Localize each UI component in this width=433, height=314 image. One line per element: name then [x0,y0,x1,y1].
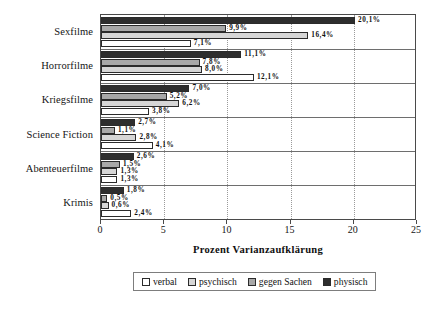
legend-swatch-icon [188,278,196,286]
bar-group: 7,0%5,2%6,2%3,8% [101,83,415,117]
bar-value-label: 2,7% [138,119,156,126]
bar-value-label: 16,4% [311,32,334,39]
bar-group: 1,8%0,5%0,6%2,4% [101,185,415,219]
legend-item[interactable]: psychisch [188,276,237,287]
x-axis-tick-label: 20 [348,224,358,235]
bar[interactable] [101,168,117,175]
bar[interactable] [101,59,200,66]
category-label: Science Fiction [0,117,99,151]
bar-value-label: 9,9% [229,25,247,32]
x-axis-tick-label: 10 [221,224,231,235]
bar[interactable] [101,195,107,202]
bar-value-label: 0,6% [112,202,130,209]
bar-row[interactable]: 2,8% [101,134,415,141]
bar[interactable] [101,187,124,194]
bar-row[interactable]: 2,6% [101,153,415,160]
bar-group: 2,6%1,5%1,3%1,3% [101,151,415,185]
bar-row[interactable]: 20,1% [101,17,415,24]
bar-value-label: 6,2% [182,100,200,107]
bar-row[interactable]: 1,8% [101,187,415,194]
bar-value-label: 1,3% [120,176,138,183]
legend-item[interactable]: physisch [323,276,368,287]
legend-swatch-icon [142,278,150,286]
category-label: Horrorfilme [0,48,99,82]
bar-row[interactable]: 6,2% [101,100,415,107]
legend-swatch-icon [248,278,256,286]
bar[interactable] [101,40,191,47]
bar-value-label: 20,1% [358,17,381,24]
legend-label: gegen Sachen [259,276,312,287]
x-axis-tick-label: 25 [411,224,421,235]
legend-label: physisch [334,276,368,287]
bar-groups: 20,1%9,9%16,4%7,1%11,1%7,8%8,0%12,1%7,0%… [101,15,415,219]
bar[interactable] [101,51,241,58]
category-label: Abenteuerfilme [0,151,99,185]
bar-value-label: 7,1% [194,40,212,47]
bar-row[interactable]: 16,4% [101,32,415,39]
bar-row[interactable]: 2,7% [101,119,415,126]
bar[interactable] [101,153,134,160]
legend-swatch-icon [323,278,331,286]
x-axis-title: Prozent Varianzaufklärung [100,244,416,255]
bar-value-label: 1,1% [118,127,136,134]
bar-group: 11,1%7,8%8,0%12,1% [101,49,415,83]
bar-row[interactable]: 9,9% [101,25,415,32]
category-label: Sexfilme [0,14,99,48]
bar-row[interactable]: 7,0% [101,85,415,92]
bar-row[interactable]: 3,8% [101,108,415,115]
bar-value-label: 11,1% [244,51,266,58]
category-label: Krimis [0,186,99,220]
bar-row[interactable]: 12,1% [101,74,415,81]
x-axis-tick-label: 0 [98,224,103,235]
bar-row[interactable]: 5,2% [101,93,415,100]
bar-value-label: 2,6% [137,153,155,160]
bar[interactable] [101,66,202,73]
bar-row[interactable]: 4,1% [101,142,415,149]
bar[interactable] [101,134,136,141]
bar-row[interactable]: 11,1% [101,51,415,58]
bar[interactable] [101,85,189,92]
legend-item[interactable]: verbal [142,276,177,287]
bar-row[interactable]: 2,4% [101,210,415,217]
plot-area: 20,1%9,9%16,4%7,1%11,1%7,8%8,0%12,1%7,0%… [100,14,416,220]
bar[interactable] [101,202,109,209]
bar-value-label: 3,8% [152,108,170,115]
bar-group: 20,1%9,9%16,4%7,1% [101,15,415,49]
legend-label: psychisch [199,276,237,287]
legend-label: verbal [153,276,177,287]
bar[interactable] [101,161,120,168]
bar[interactable] [101,74,254,81]
bar[interactable] [101,93,167,100]
bar-row[interactable]: 1,5% [101,161,415,168]
bar-row[interactable]: 1,3% [101,168,415,175]
chart-legend: verbalpsychischgegen Sachenphysisch [133,272,376,291]
bar-row[interactable]: 7,1% [101,40,415,47]
bar[interactable] [101,210,131,217]
bar[interactable] [101,127,115,134]
bar[interactable] [101,176,117,183]
bar-value-label: 7,0% [192,85,210,92]
bar-value-label: 8,0% [205,66,223,73]
bar-row[interactable]: 7,8% [101,59,415,66]
bar-value-label: 1,8% [127,187,145,194]
bar-value-label: 2,8% [139,134,157,141]
category-label: Kriegsfilme [0,83,99,117]
x-axis: 0510152025 [100,220,416,238]
legend-item[interactable]: gegen Sachen [248,276,312,287]
bar[interactable] [101,119,135,126]
x-axis-tick-label: 15 [285,224,295,235]
category-axis-labels: SexfilmeHorrorfilmeKriegsfilmeScience Fi… [0,14,99,220]
bar-row[interactable]: 1,3% [101,176,415,183]
bar[interactable] [101,25,226,32]
bar-value-label: 4,1% [156,142,174,149]
bar-group: 2,7%1,1%2,8%4,1% [101,117,415,151]
bar[interactable] [101,142,153,149]
bar-value-label: 2,4% [134,210,152,217]
bar-row[interactable]: 0,5% [101,195,415,202]
bar[interactable] [101,108,149,115]
bar-value-label: 12,1% [257,74,280,81]
bar-chart: SexfilmeHorrorfilmeKriegsfilmeScience Fi… [0,0,433,314]
x-axis-tick-label: 5 [161,224,166,235]
bar[interactable] [101,17,355,24]
